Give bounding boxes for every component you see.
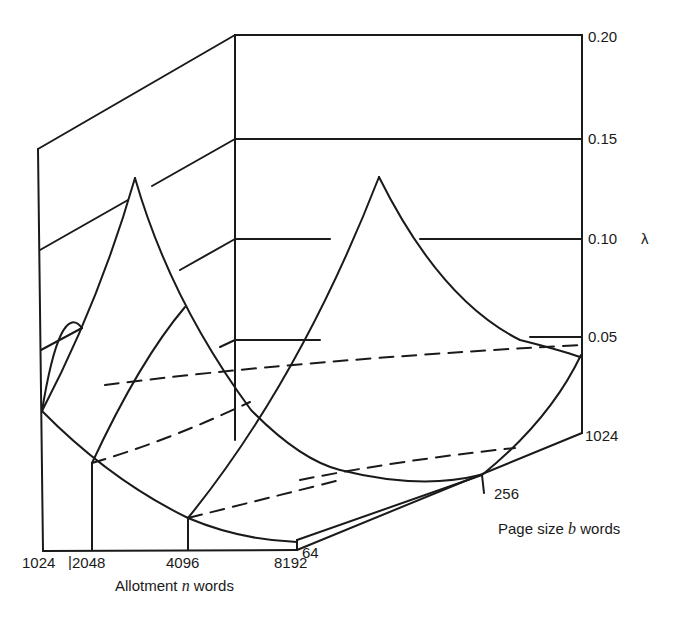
side-wall bbox=[38, 35, 235, 551]
z-tick-015: 0.15 bbox=[588, 130, 617, 147]
z-axis-label: λ bbox=[641, 230, 649, 247]
y-tick-256: 256 bbox=[494, 485, 519, 502]
x-axis-title: Allotment n words bbox=[115, 577, 234, 595]
y-tick-1024: 1024 bbox=[585, 427, 618, 444]
z-tick-005: 0.05 bbox=[588, 328, 617, 345]
z-tick-020: 0.20 bbox=[588, 28, 617, 45]
x-tick-2048: 2048 bbox=[72, 554, 105, 571]
back-wall bbox=[235, 35, 582, 440]
x-tick-4096: 4096 bbox=[166, 554, 199, 571]
x-tick-1024: 1024 bbox=[22, 554, 55, 571]
x-tick-8192: 8192 bbox=[274, 554, 307, 571]
z-tick-010: 0.10 bbox=[588, 230, 617, 247]
y-axis-title: Page size b words bbox=[498, 520, 620, 538]
